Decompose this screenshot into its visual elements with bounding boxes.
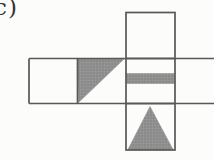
net-row-outline [29,59,214,104]
net-square-top [126,13,175,59]
net-group [29,13,214,151]
gray-right-triangle [78,59,125,103]
gray-stripe [127,74,175,84]
cube-net-figure: c) [0,0,214,160]
cube-net-svg [0,0,214,160]
gray-up-triangle [128,107,173,150]
